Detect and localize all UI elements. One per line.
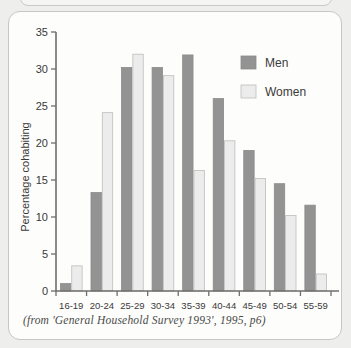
bar-women-40-44 [225, 141, 235, 291]
y-tick-label: 0 [42, 285, 48, 297]
bar-women-25-29 [133, 54, 143, 291]
legend-swatch-women [241, 85, 256, 98]
y-tick-label: 25 [36, 100, 48, 112]
bar-women-35-39 [194, 170, 204, 291]
bar-men-40-44 [213, 99, 223, 291]
x-tick-label: 40-44 [212, 300, 236, 311]
x-tick-label: 45-49 [242, 300, 266, 311]
legend-swatch-men [241, 56, 256, 69]
y-tick-label: 5 [42, 248, 48, 260]
x-tick-label: 55-59 [304, 300, 328, 311]
bar-chart: 05101520253035 16-1920-2425-2930-3435-39… [9, 12, 343, 312]
bar-women-16-19 [72, 266, 82, 291]
bar-men-20-24 [91, 193, 101, 291]
y-axis-title: Percentage cohabiting [19, 122, 31, 231]
figure-panel: 05101520253035 16-1920-2425-2930-3435-39… [8, 11, 342, 340]
source-caption: (from 'General Household Survey 1993', 1… [23, 314, 266, 326]
legend-label-women: Women [265, 85, 306, 99]
bar-men-16-19 [60, 284, 70, 291]
y-tick-label: 20 [36, 137, 48, 149]
legend-label-men: Men [265, 56, 288, 70]
x-axis-ticks: 16-1920-2425-2930-3435-3940-4445-4950-54… [56, 291, 331, 311]
y-tick-label: 10 [36, 211, 48, 223]
x-tick-label: 25-29 [120, 300, 144, 311]
bar-women-50-54 [286, 216, 296, 291]
bar-men-50-54 [274, 184, 284, 291]
y-axis-ticks: 05101520253035 [36, 26, 56, 297]
bar-men-35-39 [183, 55, 193, 291]
chart-svg: 05101520253035 16-1920-2425-2930-3435-39… [9, 12, 343, 312]
bar-men-55-59 [305, 205, 315, 291]
bar-women-45-49 [255, 179, 265, 291]
bar-women-55-59 [316, 274, 326, 291]
x-tick-label: 16-19 [59, 300, 83, 311]
bar-women-30-34 [163, 76, 173, 291]
bar-men-45-49 [244, 150, 254, 291]
bar-women-20-24 [102, 113, 112, 291]
x-tick-label: 35-39 [181, 300, 205, 311]
bar-men-30-34 [152, 68, 162, 291]
x-tick-label: 50-54 [273, 300, 297, 311]
y-tick-label: 35 [36, 26, 48, 38]
clipped-box-above [20, 0, 332, 6]
bar-men-25-29 [122, 68, 132, 291]
y-tick-label: 15 [36, 174, 48, 186]
x-tick-label: 30-34 [151, 300, 175, 311]
x-tick-label: 20-24 [90, 300, 114, 311]
y-tick-label: 30 [36, 63, 48, 75]
legend: Men Women [241, 56, 306, 99]
